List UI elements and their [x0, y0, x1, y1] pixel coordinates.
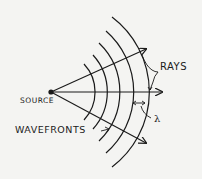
wave-diagram: RAYS SOURCE WAVEFRONTS λ — [0, 0, 202, 179]
wavelength-label: λ — [154, 113, 161, 124]
lower-ray — [51, 92, 146, 143]
rays-label: RAYS — [160, 61, 187, 72]
diagram-canvas — [0, 0, 202, 179]
wavefronts-label: WAVEFRONTS — [15, 124, 86, 135]
upper-ray — [51, 49, 146, 92]
source-point-icon — [48, 89, 53, 94]
source-label: SOURCE — [20, 96, 54, 105]
wavefronts-leader — [101, 127, 109, 133]
rays-leader — [142, 55, 158, 90]
